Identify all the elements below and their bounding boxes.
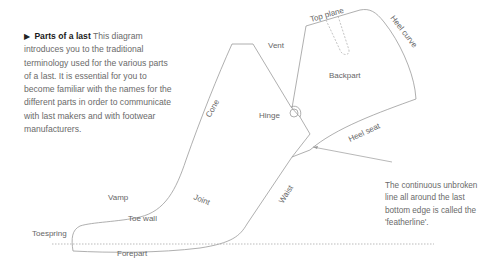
label-forepart: Forepart [117, 249, 148, 258]
label-waist: Waist [277, 183, 295, 205]
featherline-pointer [313, 147, 392, 162]
forepart-outline [72, 44, 310, 252]
label-vamp: Vamp [108, 193, 129, 202]
label-hinge: Hinge [259, 111, 280, 120]
label-vent: Vent [268, 41, 285, 50]
label-cone: Cone [204, 97, 222, 119]
top-plane-slot [326, 16, 349, 55]
label-backpart: Backpart [329, 71, 361, 80]
label-toespring: Toespring [32, 229, 67, 238]
label-joint: Joint [192, 193, 212, 208]
label-toe-wall: Toe wall [128, 214, 157, 223]
featherline-note: The continuous unbroken line all around … [385, 180, 481, 230]
label-heel-curve: Heel curve [388, 14, 419, 50]
